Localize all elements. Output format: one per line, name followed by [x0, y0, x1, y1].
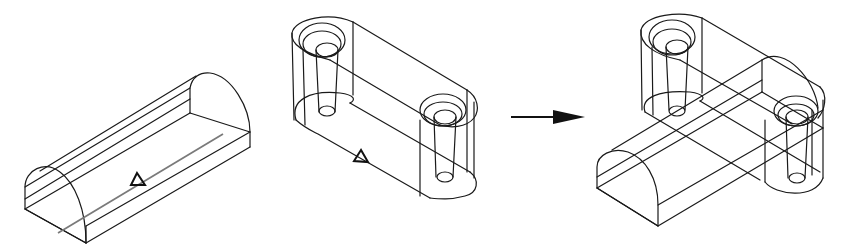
- diagram-canvas: [0, 0, 847, 248]
- triangle-marker-icon: [354, 150, 368, 162]
- triangle-marker-icon: [131, 173, 145, 185]
- operand-a-half-cylinder: [25, 73, 250, 243]
- boolean-union-diagram: [0, 0, 847, 248]
- result-union-solid: [597, 14, 825, 226]
- operand-b-slotted-link: [292, 17, 478, 199]
- result-arrow-icon: [511, 110, 585, 124]
